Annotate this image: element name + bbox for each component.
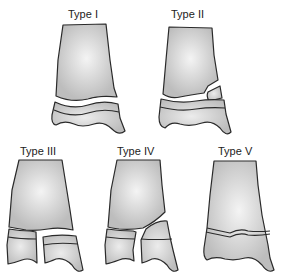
panel-type-3: Type III: [0, 140, 100, 275]
bone-type-4-illustration: [95, 140, 195, 275]
bone-type-1-illustration: [0, 0, 140, 140]
bone-type-5-illustration: [190, 140, 281, 275]
panel-type-1: Type I: [0, 0, 140, 140]
panel-type-2: Type II: [140, 0, 281, 140]
bone-type-3-illustration: [0, 140, 100, 275]
panel-type-5: Type V: [190, 140, 281, 275]
bone-type-2-illustration: [140, 0, 281, 140]
panel-type-4: Type IV: [95, 140, 195, 275]
